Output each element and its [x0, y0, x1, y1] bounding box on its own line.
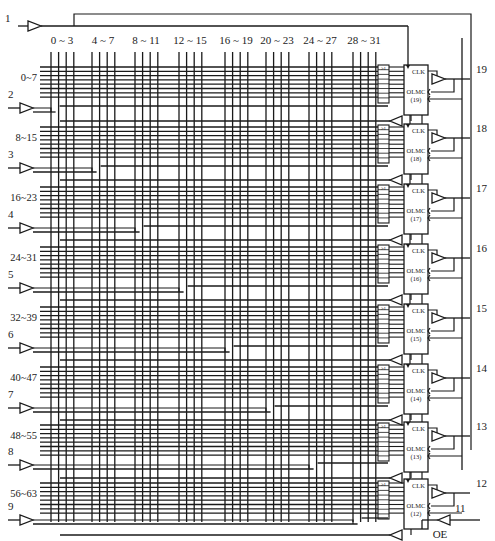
olmc-name-label: OLMC	[407, 88, 426, 95]
column-group-label: 12 ~ 15	[173, 34, 207, 46]
or-gate-symbol: ≥1	[381, 246, 387, 251]
column-group-label: 16 ~ 19	[219, 34, 253, 46]
olmc-name-label: OLMC	[407, 267, 426, 274]
row-group-label: 0~7	[21, 72, 37, 83]
feedback-buffer-icon	[390, 473, 402, 483]
output-buffer-icon	[432, 133, 445, 143]
input-pin-label: 2	[8, 88, 14, 100]
output-buffer-icon	[432, 373, 445, 383]
feedback-buffer-icon	[390, 295, 402, 305]
output-pin-label: 18	[476, 122, 488, 134]
row-group-label: 56~63	[10, 488, 37, 499]
clock-buffer-icon	[28, 21, 41, 31]
or-gate-symbol: ≥1	[381, 66, 387, 71]
output-pin-label: 17	[476, 182, 488, 194]
input-buffer-icon	[20, 163, 33, 173]
olmc-clk-label: CLK	[412, 127, 425, 134]
olmc-name-label: OLMC	[407, 327, 426, 334]
input-pin-label: 1	[5, 12, 11, 24]
input-buffer-icon	[20, 515, 33, 525]
olmc-index-label: (14)	[411, 395, 422, 403]
column-group-label: 8 ~ 11	[132, 34, 160, 46]
or-gate-symbol: ≥1	[381, 424, 387, 429]
oe-buffer-icon	[438, 515, 450, 525]
output-pin-label: 14	[476, 362, 488, 374]
row-group-label: 24~31	[10, 252, 37, 263]
feedback-buffer-icon	[390, 415, 402, 425]
input-pin-label: 9	[8, 500, 14, 512]
or-gate-symbol: ≥1	[381, 186, 387, 191]
input-pin-label: 5	[8, 268, 14, 280]
olmc-name-label: OLMC	[407, 387, 426, 394]
input-buffer-icon	[20, 343, 33, 353]
feedback-buffer-icon	[390, 116, 402, 126]
olmc-name-label: OLMC	[407, 445, 426, 452]
column-group-label: 24 ~ 27	[303, 34, 337, 46]
input-buffer-icon	[20, 460, 33, 470]
olmc-index-label: (18)	[411, 155, 422, 163]
olmc-index-label: (19)	[411, 96, 422, 104]
olmc-name-label: OLMC	[407, 207, 426, 214]
row-group-label: 48~55	[10, 430, 37, 441]
olmc-index-label: (16)	[411, 275, 422, 283]
olmc-clk-label: CLK	[412, 425, 425, 432]
input-buffer-icon	[20, 103, 33, 113]
olmc-index-label: (12)	[411, 510, 422, 518]
input-pin-label: 8	[8, 445, 14, 457]
olmc-name-label: OLMC	[407, 147, 426, 154]
feedback-buffer-icon	[390, 175, 402, 185]
input-pin-label: 7	[8, 388, 14, 400]
row-group-label: 16~23	[10, 192, 37, 203]
olmc-clk-label: CLK	[412, 482, 425, 489]
column-group-label: 28 ~ 31	[347, 34, 380, 46]
row-group-label: 8~15	[16, 132, 37, 143]
input-pin-label: 4	[8, 208, 14, 220]
or-gate-symbol: ≥1	[381, 482, 387, 487]
output-pin-label: 13	[476, 420, 488, 432]
olmc-index-label: (13)	[411, 453, 422, 461]
feedback-buffer-icon	[390, 235, 402, 245]
output-buffer-icon	[432, 488, 445, 498]
olmc-index-label: (17)	[411, 215, 422, 223]
olmc-clk-label: CLK	[412, 367, 425, 374]
feedback-buffer-icon	[390, 355, 402, 365]
gal16v8-logic-diagram: 0 ~ 34 ~ 78 ~ 1112 ~ 1516 ~ 1920 ~ 2324 …	[0, 0, 495, 541]
feedback-buffer-icon	[390, 530, 402, 540]
column-group-label: 20 ~ 23	[260, 34, 294, 46]
output-buffer-icon	[432, 431, 445, 441]
output-buffer-icon	[432, 313, 445, 323]
or-gate-symbol: ≥1	[381, 366, 387, 371]
input-pin-label: 6	[8, 328, 14, 340]
olmc-clk-label: CLK	[412, 187, 425, 194]
column-group-label: 0 ~ 3	[51, 34, 74, 46]
olmc-index-label: (15)	[411, 335, 422, 343]
olmc-clk-label: CLK	[412, 307, 425, 314]
output-pin-label: 15	[476, 302, 488, 314]
olmc-clk-label: CLK	[412, 68, 425, 75]
output-buffer-icon	[432, 253, 445, 263]
output-buffer-icon	[432, 193, 445, 203]
oe-label: OE	[433, 528, 448, 540]
input-buffer-icon	[20, 403, 33, 413]
row-group-label: 40~47	[10, 372, 37, 383]
output-buffer-icon	[432, 74, 445, 84]
olmc-name-label: OLMC	[407, 502, 426, 509]
olmc-clk-label: CLK	[412, 247, 425, 254]
input-buffer-icon	[20, 283, 33, 293]
row-group-label: 32~39	[10, 312, 37, 323]
or-gate-symbol: ≥1	[381, 306, 387, 311]
input-buffer-icon	[20, 223, 33, 233]
output-pin-label: 19	[476, 63, 488, 75]
input-pin-label: 3	[8, 148, 14, 160]
column-group-label: 4 ~ 7	[92, 34, 115, 46]
or-gate-symbol: ≥1	[381, 126, 387, 131]
output-pin-label: 16	[476, 242, 488, 254]
output-pin-label: 12	[476, 477, 487, 489]
oe-pin-label: 11	[455, 502, 466, 514]
